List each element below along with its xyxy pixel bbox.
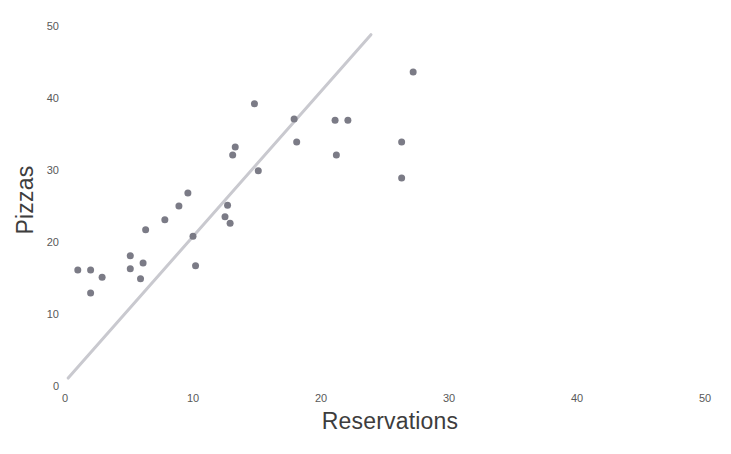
scatter-point <box>87 267 94 274</box>
scatter-point <box>190 233 197 240</box>
scatter-point <box>332 117 339 124</box>
x-tick-label: 0 <box>62 393 68 404</box>
x-tick-label: 10 <box>187 393 199 404</box>
y-tick-label: 10 <box>47 309 59 320</box>
scatter-point <box>74 267 81 274</box>
scatter-point <box>232 143 239 150</box>
y-tick-label: 50 <box>47 21 59 32</box>
scatter-point <box>222 213 229 220</box>
scatter-point <box>333 151 340 158</box>
scatter-point <box>137 275 144 282</box>
scatter-point <box>127 265 134 272</box>
scatter-point <box>344 117 351 124</box>
y-tick-label: 20 <box>47 237 59 248</box>
scatter-point <box>99 274 106 281</box>
x-tick-label: 20 <box>315 393 327 404</box>
scatter-point <box>87 290 94 297</box>
trend-line <box>68 35 371 378</box>
scatter-point <box>184 190 191 197</box>
x-tick-label: 40 <box>571 393 583 404</box>
scatter-point <box>293 138 300 145</box>
scatter-point <box>161 216 168 223</box>
y-axis-label: Pizzas <box>12 166 39 235</box>
y-tick-label: 0 <box>53 381 59 392</box>
scatter-point <box>142 226 149 233</box>
scatter-point <box>251 100 258 107</box>
scatter-point <box>227 220 234 227</box>
scatter-point <box>140 259 147 266</box>
scatter-point <box>192 262 199 269</box>
scatter-point <box>224 202 231 209</box>
trend-line-path <box>68 35 371 378</box>
scatter-point <box>229 151 236 158</box>
plot-canvas <box>0 0 731 454</box>
scatter-points <box>74 69 416 297</box>
scatter-point <box>398 174 405 181</box>
x-tick-label: 30 <box>443 393 455 404</box>
scatter-point <box>175 203 182 210</box>
scatter-point <box>398 138 405 145</box>
scatter-point <box>410 69 417 76</box>
x-tick-label: 50 <box>699 393 711 404</box>
scatter-point <box>127 252 134 259</box>
scatter-plot-figure: 0102030405001020304050 Reservations Pizz… <box>0 0 731 454</box>
scatter-point <box>291 115 298 122</box>
y-tick-label: 30 <box>47 165 59 176</box>
scatter-point <box>255 167 262 174</box>
x-axis-label: Reservations <box>322 408 459 435</box>
y-tick-label: 40 <box>47 93 59 104</box>
